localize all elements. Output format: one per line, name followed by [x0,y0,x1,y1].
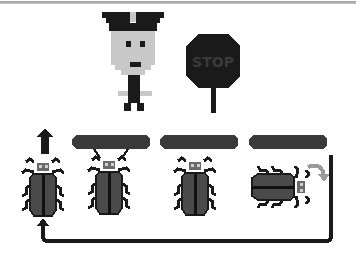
stop-sign: STOP [186,34,240,113]
stop-sign-text: STOP [192,54,234,70]
queue-bar-1 [72,135,150,149]
queue-bar-2 [160,135,238,149]
illustration-canvas: STOP [0,0,356,257]
up-arrow-icon [37,128,53,154]
rotate-arrow-icon [308,166,330,182]
beetle-3-icon [174,158,216,215]
beetle-1-icon [22,159,64,216]
queue-bar-3 [249,135,327,149]
beetle-2-icon [88,157,130,214]
traffic-officer-figure [102,12,164,111]
beetle-4-icon [252,166,309,208]
